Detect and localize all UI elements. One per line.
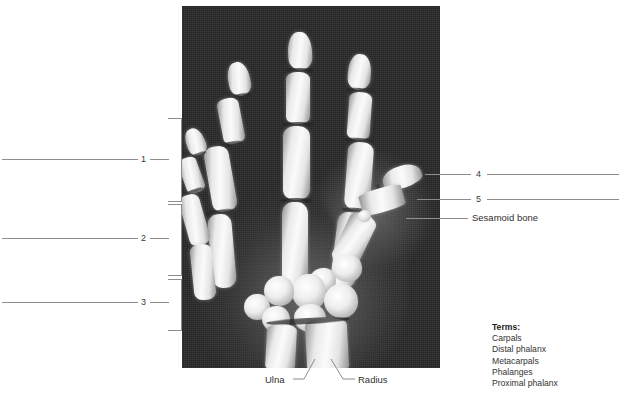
leader-line-callout-1-stub — [150, 159, 169, 160]
leader-line-callout-5 — [417, 199, 471, 200]
middle-middle-phalanx — [286, 72, 310, 124]
term-item: Proximal phalanx — [492, 378, 558, 389]
ring-distal-phalanx — [347, 53, 372, 91]
leader-line-radius — [330, 358, 356, 380]
middle-metacarpal — [282, 202, 308, 286]
label-ulna: Ulna — [265, 375, 285, 385]
answer-line-callout-2[interactable] — [2, 238, 138, 239]
hand-xray-image — [182, 6, 440, 368]
callout-number-5: 5 — [476, 195, 481, 204]
callout-number-1: 1 — [141, 155, 146, 164]
callout-number-4: 4 — [476, 170, 481, 179]
callout-number-2: 2 — [141, 234, 146, 243]
bracket-callout-1 — [168, 118, 182, 202]
carpal-bone-scaphoid — [324, 284, 358, 318]
answer-line-callout-1[interactable] — [2, 159, 138, 160]
label-sesamoid-bone: Sesamoid bone — [472, 213, 538, 223]
terms-word-bank: Terms: Carpals Distal phalanx Metacarpal… — [492, 322, 558, 389]
bracket-callout-3 — [168, 279, 182, 331]
leader-line-callout-2-stub — [150, 238, 169, 239]
term-item: Metacarpals — [492, 356, 558, 367]
label-radius: Radius — [358, 375, 388, 385]
worksheet-page: 1 2 3 4 5 Sesamoid bone Ulna Radius Term… — [0, 0, 621, 393]
leader-line-ulna — [292, 358, 316, 380]
answer-line-callout-4[interactable] — [487, 174, 619, 175]
carpal-bone-trapezium — [332, 254, 362, 282]
ring-middle-phalanx — [346, 91, 372, 140]
term-item: Distal phalanx — [492, 344, 558, 355]
term-item: Phalanges — [492, 367, 558, 378]
leader-line-callout-3-stub — [150, 302, 169, 303]
middle-proximal-phalanx — [283, 126, 310, 200]
term-item: Carpals — [492, 333, 558, 344]
terms-title: Terms: — [492, 322, 558, 333]
leader-line-sesamoid-bone — [406, 218, 468, 219]
answer-line-callout-5[interactable] — [487, 199, 619, 200]
answer-line-callout-3[interactable] — [2, 302, 138, 303]
leader-line-callout-4 — [425, 174, 471, 175]
callout-number-3: 3 — [141, 298, 146, 307]
bracket-callout-2 — [168, 204, 182, 276]
thumb-sesamoid-bone — [358, 210, 371, 222]
